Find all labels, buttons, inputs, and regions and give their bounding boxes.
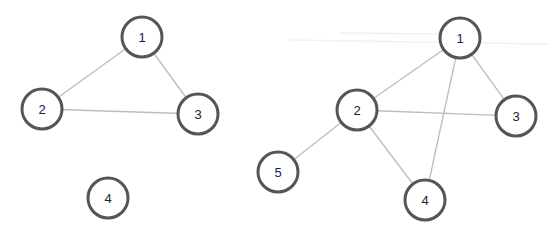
node-label: 5: [274, 165, 281, 180]
right-edge-2-3: [357, 110, 516, 116]
left-graph: 1234: [22, 17, 218, 218]
right-node-3: 3: [496, 96, 536, 136]
left-node-2: 2: [22, 89, 62, 129]
right-node-2: 2: [337, 90, 377, 130]
left-graph-nodes: 1234: [22, 17, 218, 218]
left-node-4: 4: [88, 178, 128, 218]
right-node-4: 4: [405, 180, 445, 220]
right-edge-1-4: [425, 38, 460, 200]
right-node-1: 1: [440, 18, 480, 58]
left-edge-2-3: [42, 109, 198, 114]
node-label: 3: [194, 107, 201, 122]
node-label: 4: [421, 193, 428, 208]
right-graph-nodes: 12345: [258, 18, 536, 220]
graph-diagram-canvas: 1234 12345: [0, 0, 557, 236]
node-label: 4: [104, 191, 111, 206]
node-label: 3: [512, 109, 519, 124]
left-node-1: 1: [122, 17, 162, 57]
faint-artifact-line: [290, 40, 550, 44]
right-graph-edges: [278, 38, 516, 200]
node-label: 2: [353, 103, 360, 118]
node-label: 1: [456, 31, 463, 46]
graph-diagram: 1234 12345: [0, 0, 557, 236]
node-label: 1: [138, 30, 145, 45]
right-graph: 12345: [258, 18, 536, 220]
left-node-3: 3: [178, 94, 218, 134]
left-graph-edges: [42, 37, 198, 114]
faint-artifact-line: [340, 33, 440, 34]
right-node-5: 5: [258, 152, 298, 192]
node-label: 2: [38, 102, 45, 117]
